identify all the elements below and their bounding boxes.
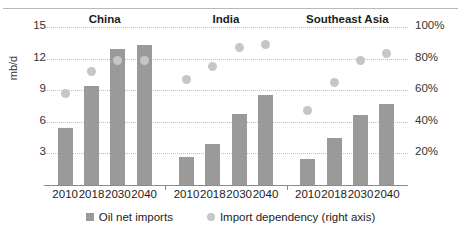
bar-india-2040 — [258, 95, 273, 185]
y-tick-6: 6 — [24, 114, 46, 126]
bar-india-2030 — [232, 114, 247, 185]
panel-separator-tick — [165, 185, 166, 190]
legend-item-oil-net-imports: Oil net imports — [86, 211, 173, 223]
x-tick-india-2040: 2040 — [249, 188, 283, 200]
dot-india-2040 — [261, 40, 270, 49]
bar-southeast-asia-2040 — [379, 104, 394, 185]
y2-tick-20%: 20% — [415, 145, 459, 157]
y-tick-15: 15 — [24, 19, 46, 31]
y2-tick-100%: 100% — [415, 19, 459, 31]
bar-china-2040 — [137, 45, 152, 185]
y-tick-3: 3 — [24, 145, 46, 157]
dot-southeast-asia-2018 — [330, 78, 339, 87]
dot-india-2018 — [208, 62, 217, 71]
y2-tick-80%: 80% — [415, 51, 459, 63]
gridline — [44, 27, 408, 28]
dot-china-2018 — [87, 67, 96, 76]
dot-southeast-asia-2040 — [382, 49, 391, 58]
top-divider-rule — [3, 8, 458, 9]
chart-legend: Oil net imports Import dependency (right… — [0, 211, 461, 223]
legend-circle-swatch-icon — [207, 213, 215, 221]
y-tick-12: 12 — [24, 51, 46, 63]
dot-china-2040 — [140, 56, 149, 65]
panel-title-china: China — [44, 13, 165, 25]
dot-china-2030 — [113, 56, 122, 65]
y-tick-9: 9 — [24, 82, 46, 94]
panel-title-india: India — [165, 13, 286, 25]
bar-china-2010 — [58, 128, 73, 185]
gridline — [44, 59, 408, 60]
dot-india-2010 — [182, 75, 191, 84]
y2-tick-60%: 60% — [415, 82, 459, 94]
panel-title-southeast-asia: Southeast Asia — [287, 13, 408, 25]
bar-southeast-asia-2018 — [327, 138, 342, 185]
dot-india-2030 — [235, 43, 244, 52]
dot-china-2010 — [61, 89, 70, 98]
legend-label-import-dependency: Import dependency (right axis) — [220, 211, 375, 223]
dot-southeast-asia-2030 — [356, 56, 365, 65]
y-axis-label: mb/d — [7, 45, 19, 91]
bar-china-2018 — [84, 86, 99, 185]
bar-southeast-asia-2030 — [353, 115, 368, 185]
x-tick-china-2040: 2040 — [127, 188, 161, 200]
bar-china-2030 — [110, 49, 125, 185]
x-tick-southeast-asia-2040: 2040 — [370, 188, 404, 200]
bar-southeast-asia-2010 — [300, 159, 315, 185]
legend-label-oil-net-imports: Oil net imports — [99, 211, 173, 223]
panel-separator-tick — [287, 185, 288, 190]
bar-india-2018 — [205, 144, 220, 185]
legend-square-swatch-icon — [86, 213, 94, 221]
chart-figure: mb/d 3691215 20%40%60%80%100% China20102… — [0, 0, 461, 235]
dot-southeast-asia-2010 — [303, 106, 312, 115]
bar-india-2010 — [179, 157, 194, 185]
y2-tick-40%: 40% — [415, 114, 459, 126]
x-axis-baseline — [44, 185, 408, 186]
legend-item-import-dependency: Import dependency (right axis) — [207, 211, 375, 223]
